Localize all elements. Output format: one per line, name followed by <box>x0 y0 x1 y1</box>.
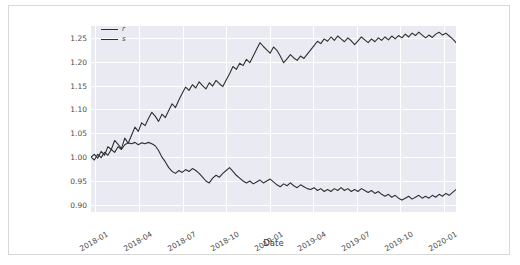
series-line-r <box>91 32 456 158</box>
series-line-s <box>91 142 456 200</box>
legend-entry-s: s <box>101 35 126 44</box>
plot-area <box>91 26 456 212</box>
series-canvas <box>91 26 456 212</box>
y-tick-label: 1.05 <box>70 129 87 138</box>
legend-label: s <box>122 36 126 43</box>
y-tick-label: 0.90 <box>70 200 87 209</box>
y-tick-label: 1.00 <box>70 153 87 162</box>
y-tick-label: 1.25 <box>70 33 87 42</box>
y-tick-label: 1.20 <box>70 57 87 66</box>
y-tick-label: 1.15 <box>70 81 87 90</box>
legend: rs <box>97 22 130 47</box>
y-axis-ticks: 0.900.951.001.051.101.151.201.25 <box>51 26 87 212</box>
legend-line-icon <box>101 39 118 40</box>
legend-line-icon <box>101 29 118 30</box>
y-tick-label: 0.95 <box>70 177 87 186</box>
y-tick-label: 1.10 <box>70 105 87 114</box>
legend-label: r <box>122 26 125 33</box>
x-axis-label: Date <box>91 238 456 248</box>
legend-entry-r: r <box>101 25 126 34</box>
figure-panel: 0.900.951.001.051.101.151.201.25 2018-01… <box>8 5 510 255</box>
